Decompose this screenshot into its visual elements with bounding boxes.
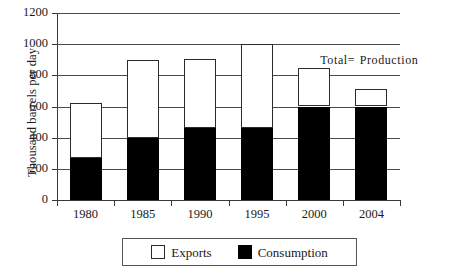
bar-segment-exports-1995 <box>241 44 273 128</box>
y-tick-label: 1000 <box>4 37 48 50</box>
x-tick-mark <box>343 201 344 206</box>
y-tick-label: 1200 <box>4 6 48 19</box>
bar-segment-consumption-1995 <box>241 128 273 200</box>
bar-segment-consumption-1990 <box>184 128 216 200</box>
y-tick-label: 0 <box>4 193 48 206</box>
x-tick-label-1985: 1985 <box>115 208 171 221</box>
gridline <box>57 169 400 170</box>
x-tick-mark <box>229 201 230 206</box>
bar-segment-exports-2000 <box>298 68 330 106</box>
bar-segment-consumption-1980 <box>70 158 102 200</box>
bar-segment-exports-1990 <box>184 59 216 128</box>
x-tick-label-1980: 1980 <box>58 208 114 221</box>
bar-segment-consumption-2004 <box>355 107 387 201</box>
plot-area <box>57 13 400 200</box>
legend-swatch-consumption-icon <box>238 245 252 259</box>
gridline <box>57 107 400 108</box>
legend-item-consumption: Consumption <box>238 245 328 259</box>
x-tick-label-2004: 2004 <box>343 208 399 221</box>
legend-item-exports: Exports <box>151 245 211 259</box>
y-tick-label: 400 <box>4 131 48 144</box>
bar-segment-consumption-2000 <box>298 107 330 201</box>
annotation-total-equals-production: Total= Production <box>320 53 418 68</box>
x-tick-label-1995: 1995 <box>229 208 285 221</box>
bar-segment-exports-2004 <box>355 89 387 106</box>
x-tick-label-1990: 1990 <box>172 208 228 221</box>
x-tick-mark <box>400 201 401 206</box>
chart-legend: Exports Consumption <box>122 238 357 266</box>
x-tick-mark <box>286 201 287 206</box>
gridline <box>57 75 400 76</box>
legend-label-consumption: Consumption <box>258 246 328 259</box>
gridline <box>57 13 400 14</box>
stacked-bar-chart: Thousand barrels per day 0 200 400 600 8… <box>0 0 472 275</box>
legend-label-exports: Exports <box>171 246 211 259</box>
x-tick-mark <box>114 201 115 206</box>
y-tick-label: 800 <box>4 68 48 81</box>
gridline <box>57 138 400 139</box>
y-tick-label: 600 <box>4 100 48 113</box>
y-tick-label: 200 <box>4 162 48 175</box>
gridline <box>57 44 400 45</box>
x-tick-mark <box>171 201 172 206</box>
x-tick-mark <box>57 201 58 206</box>
bar-segment-exports-1985 <box>127 60 159 138</box>
legend-swatch-exports-icon <box>151 245 165 259</box>
bar-segment-exports-1980 <box>70 103 102 158</box>
x-tick-label-2000: 2000 <box>286 208 342 221</box>
bar-segment-consumption-1985 <box>127 138 159 200</box>
